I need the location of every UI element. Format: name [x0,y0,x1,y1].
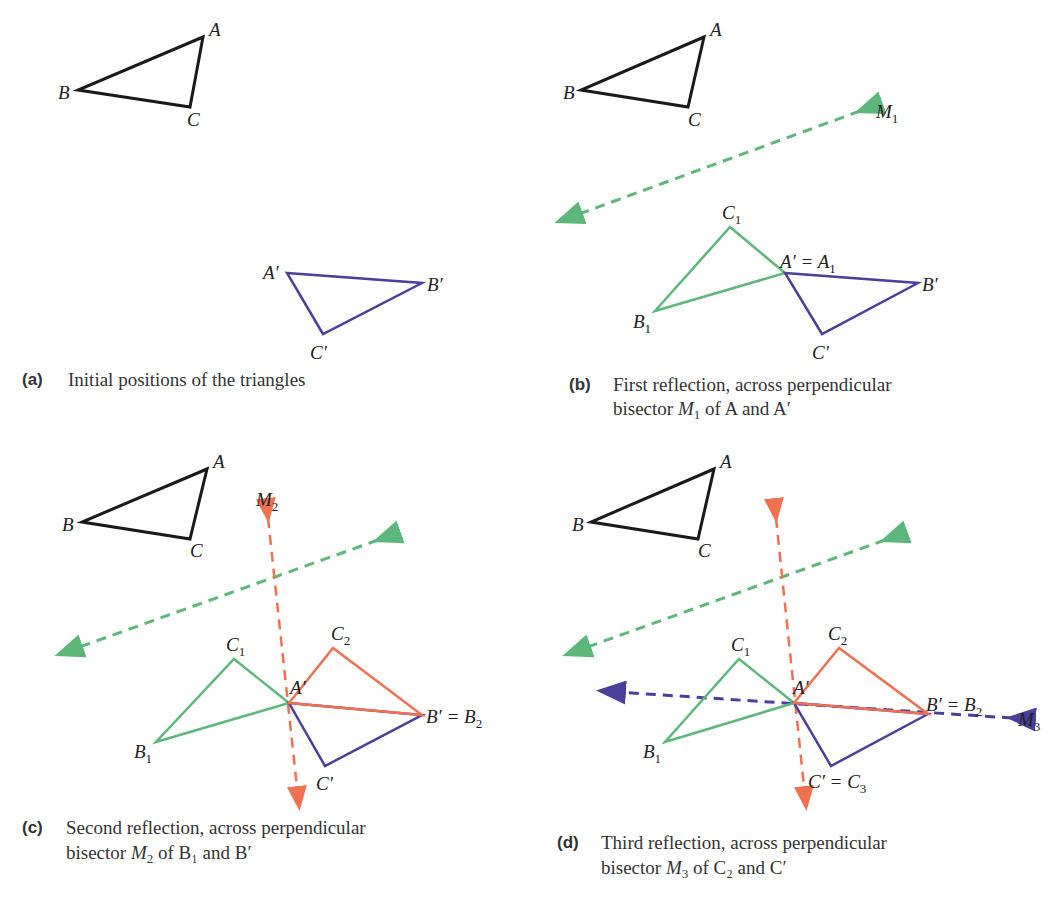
triangle-target [287,273,422,334]
triangle-first-reflection [655,227,785,311]
label-c-prime: C′ [316,773,334,794]
label-c: C [190,540,203,561]
caption-c-line2: bisector M2 of B₁ and B′ [66,842,252,866]
caption-d-line1: Third reflection, across perpendicular [601,832,888,853]
triangle-abc [82,469,207,539]
label-c1: C1 [722,202,741,227]
panel-b: A B C M1 C1 A′ = A1 B1 B′ C′ (b) First r… [560,19,939,422]
label-m2: M2 [255,489,278,514]
mirror-m2 [268,518,299,806]
label-a: A [708,19,722,40]
label-b2: B′ = B2 [426,706,482,731]
label-c-prime: C′ [812,342,830,363]
label-b: B [563,82,575,103]
caption-tag-a: (a) [22,370,43,389]
label-c2: C2 [828,623,847,648]
label-c2: C2 [331,623,350,648]
label-a-prime: A′ [288,677,307,698]
label-a: A [207,19,221,40]
caption-c-line1: Second reflection, across perpendicular [66,817,366,838]
mirror-m1 [560,111,860,221]
label-b: B [58,82,70,103]
panel-a: A B C A′ B′ C′ (a) Initial positions of … [22,19,444,390]
caption-tag-c: (c) [22,818,43,837]
triangle-abc [591,469,714,539]
triangle-target [785,273,918,334]
label-b: B [572,514,584,535]
label-b-prime: B′ [427,274,444,295]
label-c3: C′ = C3 [808,771,866,796]
triangle-second-reflection [794,648,928,714]
label-a-prime: A′ [261,262,280,283]
label-c: C [698,540,711,561]
label-a: A [211,451,225,472]
label-m1: M1 [875,101,898,126]
caption-b-line1: First reflection, across perpendicular [613,374,892,395]
label-c-prime: C′ [310,342,328,363]
label-c1: C1 [731,634,750,659]
label-a-prime: A′ [791,677,810,698]
panel-c: A B C M2 C1 B1 C2 A′ B′ = B2 C′ (c) Seco… [22,451,482,866]
label-c: C [688,109,701,130]
caption-b-line2: bisector M1 of A and A′ [613,398,791,422]
label-m3: M3 [1017,709,1040,734]
label-b-prime: B′ [922,274,939,295]
triangle-first-reflection [665,659,794,742]
label-b1: B1 [633,311,651,336]
label-b1: B1 [643,741,661,766]
caption-d-line2: bisector M3 of C₂ and C′ [601,857,787,881]
triangle-abc [581,37,704,107]
reflection-diagram: A B C A′ B′ C′ (a) Initial positions of … [0,0,1064,905]
label-a: A [718,451,732,472]
label-c: C [187,109,200,130]
triangle-first-reflection [156,659,289,742]
triangle-second-reflection [289,648,422,715]
caption-tag-b: (b) [569,375,591,394]
caption-a: Initial positions of the triangles [68,369,305,390]
label-b: B [62,514,74,535]
caption-tag-d: (d) [557,833,579,852]
panel-d: A B C M3 C1 B1 C2 A′ B′ = B2 C′ = C3 (d)… [557,451,1040,881]
label-c1: C1 [226,634,245,659]
label-b1: B1 [134,741,152,766]
mirror-m2 [776,518,806,806]
triangle-abc [78,37,203,107]
